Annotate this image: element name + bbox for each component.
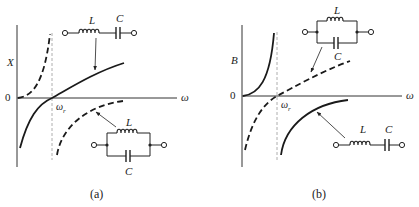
capacitor-label: C: [385, 123, 393, 135]
parallel-curve-b: [245, 61, 350, 150]
reactance-susceptance-diagram: L C L C X 0 ω ω r: [0, 0, 419, 207]
pointer-arrow-series-a: [95, 38, 96, 70]
parallel-lc-circuit-b: L C: [302, 4, 373, 62]
caption-a: (a): [90, 187, 103, 202]
capacitor-label: C: [125, 165, 133, 177]
series-curve-a: [20, 63, 124, 148]
pointer-arrow-parallel-b: [311, 47, 322, 72]
x-axis-label-a: ω: [181, 91, 189, 103]
parallel-curve-high-a: [57, 101, 123, 155]
origin-label-b: 0: [230, 89, 236, 101]
inductor-icon: [117, 129, 137, 133]
inductor-icon: [327, 17, 343, 21]
capacitor-label: C: [334, 50, 342, 62]
panel-a: L C L C X 0 ω ω r: [5, 12, 189, 177]
inductor-icon: [79, 29, 99, 33]
series-lc-circuit-a: L C: [62, 12, 136, 39]
series-curve-low-b: [243, 33, 274, 96]
panel-b: L C L C B 0 ω ω r: [230, 4, 414, 167]
x-axis-label-b: ω: [406, 89, 414, 101]
resonance-label-a: ω: [56, 101, 63, 112]
parallel-lc-circuit-a: L C: [91, 116, 166, 177]
y-axis-label-a: X: [6, 56, 15, 68]
pointer-arrow-parallel-a: [96, 112, 116, 127]
parallel-curve-low-a: [18, 34, 50, 98]
resonance-subscript-a: r: [63, 107, 66, 115]
capacitor-label: C: [116, 12, 124, 24]
inductor-label: L: [359, 123, 366, 135]
inductor-icon: [350, 141, 370, 145]
inductor-label: L: [88, 14, 95, 26]
resonance-subscript-b: r: [288, 105, 291, 113]
y-axis-label-b: B: [231, 54, 238, 66]
inductor-label: L: [333, 4, 340, 16]
pointer-arrow-series-b: [317, 112, 345, 138]
origin-label-a: 0: [5, 91, 11, 103]
caption-b: (b): [312, 187, 326, 202]
resonance-label-b: ω: [281, 99, 288, 110]
inductor-label: L: [125, 116, 132, 128]
